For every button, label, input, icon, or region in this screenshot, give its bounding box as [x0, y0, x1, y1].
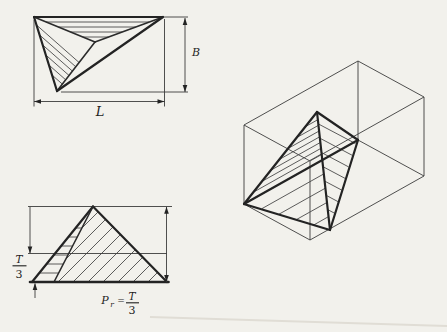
arrowhead-left	[34, 99, 41, 104]
arrowhead-right	[158, 99, 165, 104]
arrowhead-up	[164, 207, 169, 214]
top-view: L B	[34, 17, 200, 119]
pr-denominator-3: 3	[129, 304, 136, 317]
pr-variable: P	[100, 294, 109, 307]
arrowhead-up	[33, 283, 38, 290]
dimension-T-third: T 3	[13, 207, 38, 298]
scan-artifact-line	[150, 317, 447, 326]
technical-drawing: L B	[0, 0, 447, 332]
fraction-denominator-3: 3	[16, 268, 23, 281]
pr-equals: =	[117, 296, 125, 306]
arrowhead-down	[183, 85, 188, 92]
front-view: T 3 P r = T 3	[13, 207, 173, 318]
arrowhead-up	[183, 18, 188, 25]
annotation-pr: P r = T 3	[100, 290, 139, 317]
dimension-T	[164, 207, 169, 282]
fraction-numerator-T: T	[15, 253, 23, 265]
dim-label-B: B	[191, 46, 200, 59]
isometric-view	[244, 61, 424, 240]
iso-tetrahedron-edges	[244, 112, 358, 230]
pr-numerator-T: T	[128, 290, 136, 302]
dim-label-L: L	[95, 104, 105, 119]
arrowhead-down	[28, 247, 33, 254]
front-view-hatching	[39, 212, 157, 282]
top-view-hatching	[37, 22, 150, 84]
drawing-page: L B	[0, 0, 447, 332]
pr-subscript: r	[110, 300, 114, 309]
